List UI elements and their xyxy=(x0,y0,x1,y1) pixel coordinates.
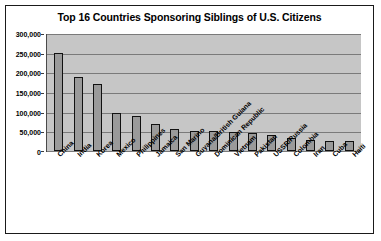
y-tick-mark xyxy=(41,93,44,94)
y-tick-label: 0 xyxy=(37,149,41,156)
bar xyxy=(54,53,63,151)
y-tick-label: 50,000 xyxy=(20,129,41,136)
bar xyxy=(112,113,121,151)
y-tick-mark xyxy=(41,132,44,133)
bar xyxy=(74,77,83,151)
y-axis: 300,000250,000200,000150,000100,00050,00… xyxy=(6,34,44,152)
y-tick-mark xyxy=(41,54,44,55)
y-tick-label: 200,000 xyxy=(16,70,41,77)
y-tick-label: 300,000 xyxy=(16,31,41,38)
bar xyxy=(132,116,141,151)
y-tick-label: 150,000 xyxy=(16,90,41,97)
y-tick-mark xyxy=(41,73,44,74)
y-tick-mark xyxy=(41,34,44,35)
y-tick-label: 100,000 xyxy=(16,109,41,116)
chart-frame: Top 16 Countries Sponsoring Siblings of … xyxy=(5,5,374,234)
bar xyxy=(93,84,102,151)
x-axis: ChinaIndiaKoreaMexicoPhilippinesJamaicaS… xyxy=(46,153,361,233)
y-tick-mark xyxy=(41,151,44,152)
y-tick-label: 250,000 xyxy=(16,50,41,57)
chart-title: Top 16 Countries Sponsoring Siblings of … xyxy=(6,11,373,23)
y-tick-mark xyxy=(41,113,44,114)
